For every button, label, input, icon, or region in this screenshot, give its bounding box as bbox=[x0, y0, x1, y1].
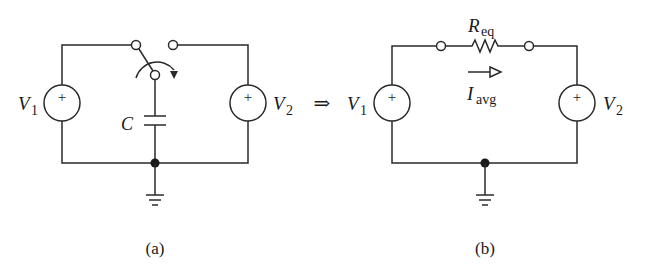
caption-a: (a) bbox=[146, 239, 165, 258]
wire-a-right-top bbox=[177, 45, 248, 85]
v1-subscript: 1 bbox=[31, 103, 38, 118]
v1-label: V bbox=[347, 93, 361, 114]
ground-icon bbox=[476, 163, 494, 205]
capacitor-label: C bbox=[121, 114, 134, 134]
switch-blade bbox=[139, 49, 153, 71]
polarity-plus: + bbox=[244, 89, 252, 105]
terminal-right bbox=[525, 42, 534, 51]
current-arrow-head-icon bbox=[490, 67, 501, 77]
switch-terminal-right bbox=[169, 41, 178, 50]
terminal-left bbox=[437, 42, 446, 51]
current-label: I bbox=[466, 83, 475, 104]
resistor-subscript: eq bbox=[481, 24, 494, 39]
v2-subscript: 2 bbox=[286, 103, 293, 118]
v1-label: V bbox=[18, 93, 32, 114]
equivalence-arrow-icon: ⇒ bbox=[314, 92, 331, 114]
v2-label: V bbox=[603, 93, 617, 114]
wire-b-bottom bbox=[392, 121, 577, 163]
circuit-a: C + V 1 + V 2 (a) bbox=[18, 41, 293, 259]
wire-a-left-top bbox=[62, 45, 132, 85]
polarity-plus: + bbox=[388, 89, 396, 105]
switched-capacitor-diagram: C + V 1 + V 2 (a) ⇒ R eq I bbox=[0, 0, 645, 274]
v2-label: V bbox=[273, 93, 287, 114]
ground-icon bbox=[146, 163, 164, 205]
resistor-label: R bbox=[467, 15, 480, 36]
caption-b: (b) bbox=[475, 239, 495, 258]
wire-b-right-top bbox=[533, 46, 577, 85]
polarity-plus: + bbox=[573, 89, 581, 105]
v1-subscript: 1 bbox=[360, 103, 367, 118]
wire-b-left-top bbox=[392, 46, 437, 85]
arrow-head-icon bbox=[170, 71, 178, 79]
resistor-req bbox=[445, 40, 525, 52]
current-subscript: avg bbox=[476, 92, 496, 107]
v2-subscript: 2 bbox=[616, 103, 623, 118]
circuit-b: R eq I avg + V 1 + V 2 (b) bbox=[347, 15, 623, 258]
polarity-plus: + bbox=[58, 89, 66, 105]
switch-pivot bbox=[151, 71, 160, 80]
switch-terminal-left bbox=[132, 41, 141, 50]
